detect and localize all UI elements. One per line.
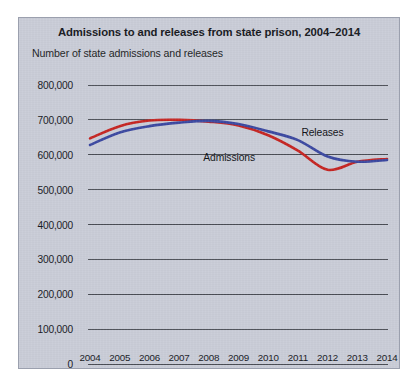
x-tick-label: 2010 (258, 352, 279, 363)
series-label-releases: Releases (301, 127, 343, 138)
x-tick-label: 2012 (317, 352, 338, 363)
x-tick-label: 2008 (198, 352, 219, 363)
y-tick-label: 500,000 (21, 184, 73, 195)
chart-svg (19, 18, 400, 369)
y-tick-label: 300,000 (21, 254, 73, 265)
y-tick-label: 800,000 (21, 80, 73, 91)
x-tick-label: 2014 (377, 352, 398, 363)
x-tick-label: 2013 (347, 352, 368, 363)
y-axis: 0100,000200,000300,000400,000500,000600,… (19, 18, 73, 369)
y-tick-label: 400,000 (21, 219, 73, 230)
x-tick-label: 2006 (139, 352, 160, 363)
y-tick-label: 200,000 (21, 289, 73, 300)
chart-panel: Admissions to and releases from state pr… (18, 17, 400, 369)
x-tick-label: 2009 (228, 352, 249, 363)
x-tick-label: 2011 (288, 352, 308, 363)
series-label-admissions: Admissions (203, 152, 255, 163)
x-tick-label: 2005 (109, 352, 130, 363)
y-tick-label: 600,000 (21, 149, 73, 160)
x-axis: 2004200520062007200820092010201120122013… (19, 352, 400, 369)
x-tick-label: 2007 (169, 352, 190, 363)
y-tick-label: 100,000 (21, 324, 73, 335)
x-tick-label: 2004 (80, 352, 101, 363)
y-tick-label: 700,000 (21, 114, 73, 125)
plot-area: 0100,000200,000300,000400,000500,000600,… (19, 18, 400, 369)
